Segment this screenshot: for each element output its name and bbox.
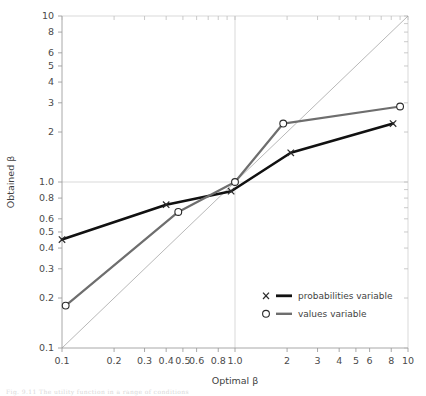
tick-label-y: 6 — [48, 47, 54, 58]
log-log-scatter-line-chart: 0.10.20.30.40.50.60.81.0234568100.10.20.… — [0, 0, 426, 396]
tick-label-x: 4 — [336, 355, 342, 366]
y-axis-title: Obtained β — [5, 156, 16, 209]
tick-label-y: 0.1 — [39, 342, 54, 353]
tick-label-y: 0.5 — [39, 226, 54, 237]
tick-label-y: 10 — [42, 10, 54, 21]
data-point-circle — [175, 209, 182, 216]
figure-caption: Fig. 9.11 The utility function in a rang… — [6, 388, 189, 395]
tick-label-y: 1.0 — [39, 176, 54, 187]
data-point-circle — [397, 103, 404, 110]
tick-label-x: 1.0 — [227, 355, 242, 366]
x-axis-title: Optimal β — [212, 375, 259, 386]
chart-background — [0, 0, 426, 396]
tick-label-y: 0.3 — [39, 263, 54, 274]
data-point-circle — [280, 120, 287, 127]
tick-label-y: 5 — [48, 60, 54, 71]
tick-label-x: 5 — [353, 355, 359, 366]
tick-label-x: 3 — [315, 355, 321, 366]
tick-label-x: 0.4 — [159, 355, 174, 366]
figure-container: 0.10.20.30.40.50.60.81.0234568100.10.20.… — [0, 0, 426, 396]
legend-marker-circle-icon — [263, 310, 270, 317]
tick-label-y: 0.2 — [39, 292, 54, 303]
tick-label-x: 10 — [402, 355, 414, 366]
tick-label-y: 0.8 — [39, 192, 54, 203]
tick-label-y: 2 — [48, 126, 54, 137]
data-point-circle — [232, 179, 239, 186]
tick-label-y: 0.6 — [39, 213, 54, 224]
tick-label-x: 0.8 — [211, 355, 226, 366]
tick-label-y: 3 — [48, 97, 54, 108]
legend-label: values variable — [298, 309, 367, 319]
tick-label-y: 4 — [48, 76, 54, 87]
tick-label-x: 8 — [388, 355, 394, 366]
tick-label-y: 8 — [48, 26, 54, 37]
tick-label-x: 0.1 — [54, 355, 69, 366]
tick-label-y: 0.4 — [39, 242, 54, 253]
tick-label-x: 0.6 — [189, 355, 204, 366]
tick-label-x: 0.2 — [107, 355, 122, 366]
data-point-circle — [62, 302, 69, 309]
legend-label: probabilities variable — [298, 291, 393, 301]
tick-label-x: 6 — [367, 355, 373, 366]
tick-label-x: 2 — [284, 355, 290, 366]
tick-label-x: 0.3 — [137, 355, 152, 366]
